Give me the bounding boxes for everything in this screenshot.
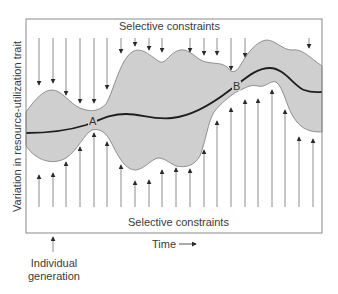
y-axis-label: Variation in resource-utilization trait [11, 41, 23, 212]
generation-label-line2: generation [28, 270, 80, 283]
x-axis-label: Time [152, 238, 176, 250]
top-constraints-label: Selective constraints [119, 20, 220, 32]
individual-generation-label: Individual generation [28, 257, 80, 283]
point-b-label: B [233, 80, 240, 92]
point-a-label: A [89, 115, 97, 127]
bottom-constraints-label: Selective constraints [128, 216, 229, 228]
variation-band [26, 40, 322, 170]
generation-label-line1: Individual [28, 257, 80, 270]
